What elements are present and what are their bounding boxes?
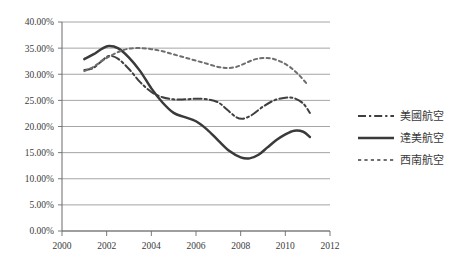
- x-tick-label: 2008: [231, 241, 250, 251]
- y-tick-label: 35.00%: [25, 44, 54, 54]
- gridlines-group: 0.00%5.00%10.00%15.00%20.00%25.00%30.00%…: [25, 17, 330, 236]
- y-tick-label: 10.00%: [25, 174, 54, 184]
- x-tick-label: 2002: [97, 241, 116, 251]
- y-tick-label: 0.00%: [29, 226, 54, 236]
- series-group: [84, 46, 310, 159]
- x-tick-label: 2004: [142, 241, 161, 251]
- y-tick-label: 5.00%: [29, 200, 54, 210]
- series-line-2: [84, 48, 307, 85]
- x-tick-label: 2000: [53, 241, 72, 251]
- y-tick-label: 15.00%: [25, 148, 54, 158]
- y-tick-label: 30.00%: [25, 70, 54, 80]
- x-tick-label: 2012: [321, 241, 340, 251]
- series-line-0: [84, 56, 310, 119]
- x-tick-label: 2006: [187, 241, 206, 251]
- chart-legend: 美國航空達美航空西南航空: [358, 109, 444, 166]
- legend-label-2: 西南航空: [400, 153, 444, 166]
- legend-label-1: 達美航空: [400, 131, 444, 144]
- y-tick-label: 25.00%: [25, 96, 54, 106]
- x-tick-label: 2010: [276, 241, 295, 251]
- line-chart: 0.00%5.00%10.00%15.00%20.00%25.00%30.00%…: [0, 0, 458, 278]
- legend-label-0: 美國航空: [400, 109, 444, 122]
- y-tick-label: 20.00%: [25, 122, 54, 132]
- y-tick-label: 40.00%: [25, 17, 54, 27]
- x-axis-group: 2000200220042006200820102012: [53, 231, 340, 251]
- series-line-1: [84, 46, 310, 159]
- chart-canvas: 0.00%5.00%10.00%15.00%20.00%25.00%30.00%…: [0, 0, 458, 278]
